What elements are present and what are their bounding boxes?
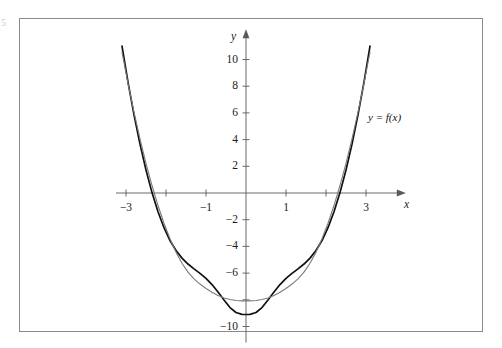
x-tick-label-1: 1 [283,202,289,214]
y-tick-label-6: 6 [232,107,238,119]
y-tick-label--6: −6 [226,267,238,279]
y-tick-label--2: −2 [226,214,238,226]
y-tick-label--4: −4 [226,240,238,252]
y-axis-arrow [243,29,250,38]
curve-label-f: y = f(x) [368,112,401,123]
figure-page: 5 x y y = f(x) −3−113108642−2−4−6−10 [0,0,502,348]
x-tick-label--3: −3 [120,202,132,214]
x-tick-label-3: 3 [363,202,369,214]
y-tick-label-10: 10 [227,54,239,66]
y-tick-label--10: −10 [220,321,238,333]
axis-lines [116,29,406,342]
x-axis-label: x [404,199,409,211]
x-axis-arrow [397,190,406,197]
y-tick-label-4: 4 [232,134,238,146]
x-tick-label--1: −1 [200,202,212,214]
y-tick-label-2: 2 [232,160,238,172]
y-axis-label: y [231,31,236,43]
y-tick-label-8: 8 [232,80,238,92]
graph-plot [0,0,502,348]
